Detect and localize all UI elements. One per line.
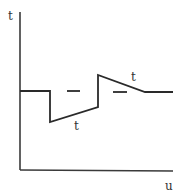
y-axis-label: t [8,9,13,23]
curve-line [20,75,173,122]
curve-label-lower: t [74,119,79,133]
curve-label-upper: t [131,70,136,84]
diagram-canvas: t u t t [0,0,183,194]
x-axis-label: u [165,179,173,193]
x-axis [20,170,173,171]
